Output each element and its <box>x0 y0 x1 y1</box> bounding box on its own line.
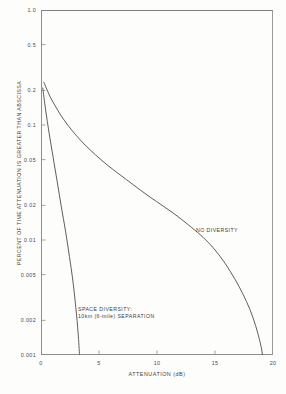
x-axis-title: ATTENUATION (dB) <box>41 371 273 377</box>
y-tick-label: 0.002 <box>21 317 36 323</box>
annotation-space-diversity-line2: 10km (6-mile) SEPARATION <box>78 313 155 320</box>
y-tick-label: 0.001 <box>21 352 36 358</box>
y-tick-label: 0.005 <box>21 272 36 278</box>
y-tick-label: 0.2 <box>27 87 36 93</box>
annotation-space-diversity: SPACE DIVERSITY: 10km (6-mile) SEPARATIO… <box>78 306 155 319</box>
y-tick-label: 0.02 <box>24 202 36 208</box>
x-tick-label: 15 <box>212 360 219 366</box>
x-tick-label: 10 <box>154 360 161 366</box>
annotation-no-diversity: NO DIVERSITY <box>196 227 238 234</box>
x-tick-label: 5 <box>97 360 100 366</box>
y-tick-label: 0.05 <box>24 157 36 163</box>
y-axis-title: PERCENT OF TIME ATTENUATION IS GREATER T… <box>16 58 22 288</box>
y-tick-label: 0.01 <box>24 237 36 243</box>
y-axis-ticks <box>41 10 46 355</box>
caption-sliver <box>38 386 248 392</box>
y-tick-label: 1.0 <box>27 7 36 13</box>
x-axis-ticks <box>41 351 273 356</box>
figure-container: 1.00.50.20.10.050.020.010.0050.0020.001 … <box>0 0 286 394</box>
plot-canvas <box>41 10 273 355</box>
annotation-space-diversity-line1: SPACE DIVERSITY: <box>78 306 155 313</box>
y-tick-label: 0.5 <box>27 42 36 48</box>
y-tick-label: 0.1 <box>27 122 36 128</box>
x-tick-label: 20 <box>270 360 277 366</box>
x-axis-tick-labels: 05101520 <box>0 360 286 370</box>
x-tick-label: 0 <box>39 360 42 366</box>
curve-space-diversity <box>43 88 80 355</box>
